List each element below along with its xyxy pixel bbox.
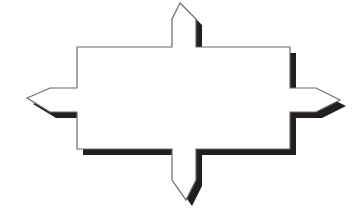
four-directional-arrow-diagram: [0, 0, 361, 219]
figure-canvas: [0, 0, 361, 219]
